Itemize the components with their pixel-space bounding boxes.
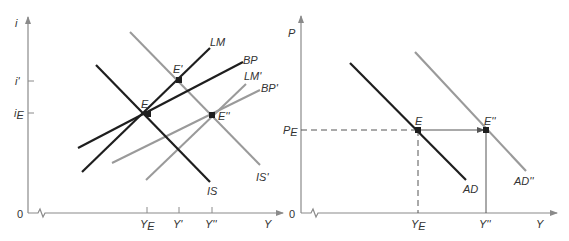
left-x-axis-label: Y [264,218,272,230]
lm-prime-label: LM' [244,70,262,82]
ad-curve [350,63,466,180]
point-e-double-prime-label: E'' [218,110,230,122]
right-point-e-label: E [415,115,423,127]
label-y-double-prime: Y'' [205,218,217,230]
right-label-y-e: YE [411,218,426,232]
right-label-y-double-prime: Y'' [479,218,491,230]
point-e-label: E [141,98,149,110]
lm-curve [82,48,210,172]
left-origin-label: 0 [17,208,23,220]
left-y-axis-label: i [15,17,18,29]
right-panel-ad: P 0 PE YE Y'' Y AD'' AD E E'' [283,16,557,232]
right-point-e-double-prime-label: E'' [484,115,496,127]
right-y-axis-label: P [288,27,296,39]
bp-prime-curve [112,90,260,163]
is-label: IS [207,185,218,197]
left-panel-is-lm-bp: i i' iE 0 YE Y' Y'' Y IS' LM' BP' IS LM … [14,17,283,232]
left-x-axis [28,209,283,217]
label-p-e: PE [283,124,298,138]
point-e-prime-label: E' [173,63,183,75]
is-lm-bp-ad-diagram: i i' iE 0 YE Y' Y'' Y IS' LM' BP' IS LM … [0,0,569,241]
right-x-axis-label: Y [536,218,544,230]
right-point-e [415,127,421,133]
right-x-axis [301,209,557,217]
bp-prime-label: BP' [261,82,279,94]
right-origin-label: 0 [289,208,295,220]
ad-label: AD [462,183,478,195]
bp-curve [78,62,243,148]
ad-double-prime-curve [415,52,526,171]
lm-label: LM [210,36,226,48]
is-prime-label: IS' [256,171,269,183]
right-point-e-double-prime [483,127,489,133]
ad-double-prime-label: AD'' [513,175,534,187]
point-e-prime [176,77,182,83]
point-e [145,111,151,117]
bp-label: BP [243,54,258,66]
label-y-e: YE [140,218,155,232]
label-y-prime: Y' [173,218,183,230]
point-e-double-prime [209,112,215,118]
label-i-e: iE [14,107,24,121]
label-i-prime: i' [15,75,20,87]
